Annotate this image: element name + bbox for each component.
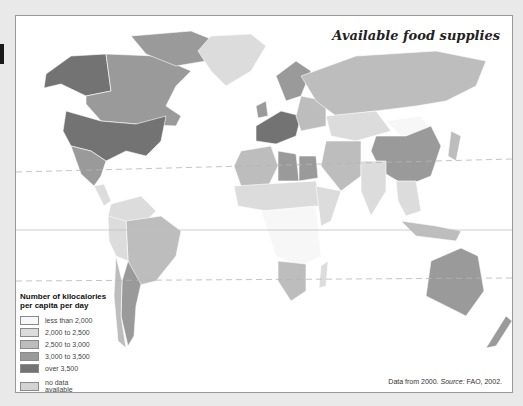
- region-egypt: [299, 156, 318, 181]
- source-note: Data from 2000. Source: FAO, 2002.: [388, 378, 502, 385]
- region-southern-africa: [278, 261, 306, 301]
- region-uk: [256, 101, 268, 118]
- region-new-zealand: [486, 316, 512, 348]
- region-central-africa: [261, 206, 321, 266]
- legend-swatch: [20, 340, 39, 349]
- region-east-africa: [316, 186, 341, 226]
- page-tab-marker: [0, 44, 4, 64]
- legend-item: 2,500 to 3,000: [20, 338, 148, 350]
- legend-item: 3,000 to 3,500: [20, 350, 148, 362]
- legend-item: over 3,500: [20, 362, 148, 374]
- legend-title: Number of kilocalories per capita per da…: [20, 292, 148, 310]
- region-libya: [278, 151, 299, 181]
- region-central-america: [94, 184, 111, 206]
- map-title: Available food supplies: [332, 28, 500, 43]
- region-india: [361, 161, 386, 216]
- legend-item: no data available: [20, 376, 148, 393]
- region-russia: [301, 51, 486, 116]
- region-indonesia: [401, 221, 461, 241]
- region-middle-east: [321, 141, 361, 191]
- region-australia: [426, 248, 484, 316]
- legend-item: 2,000 to 2,500: [20, 326, 148, 338]
- region-madagascar: [319, 261, 328, 288]
- legend-swatch: [20, 364, 39, 373]
- region-peru-bolivia: [108, 216, 128, 261]
- region-alaska: [44, 54, 111, 96]
- legend-swatch: [20, 382, 39, 391]
- map-frame: Available food supplies Number of kiloca…: [15, 15, 513, 393]
- legend: Number of kilocalories per capita per da…: [20, 292, 148, 393]
- legend-swatch: [20, 328, 39, 337]
- region-greenland: [198, 34, 266, 86]
- legend-item: less than 2,000: [20, 314, 148, 326]
- region-japan: [448, 131, 461, 161]
- legend-swatch: [20, 352, 39, 361]
- legend-swatch: [20, 316, 39, 325]
- region-southeast-asia: [396, 181, 421, 216]
